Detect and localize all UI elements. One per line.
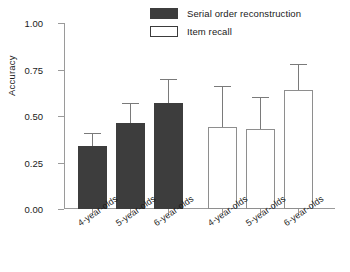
error-bar-stem [92, 133, 93, 146]
error-bar-cap [160, 79, 177, 80]
legend-label-serial-order-reconstruction: Serial order reconstruction [187, 8, 301, 19]
error-bar-stem [130, 103, 131, 123]
y-axis-title: Accuracy [6, 55, 17, 96]
y-tick-label: 0.25 [0, 159, 43, 169]
error-bar-stem [222, 86, 223, 127]
error-bar-cap [290, 64, 307, 65]
bar-serial-order-reconstruction-6-year-olds [154, 103, 183, 209]
y-tick-mark [58, 163, 64, 164]
error-bar-cap [122, 103, 139, 104]
y-tick-mark [58, 23, 64, 24]
error-bar-stem [168, 79, 169, 103]
y-tick-mark [58, 70, 64, 71]
y-axis-line [64, 23, 65, 209]
y-tick-label: 1.00 [0, 19, 43, 29]
y-tick-mark [58, 116, 64, 117]
bar-item-recall-4-year-olds [208, 127, 237, 209]
y-tick-label: 0.50 [0, 112, 43, 122]
legend-entry-serial-order-reconstruction: Serial order reconstruction [150, 7, 301, 19]
bar-item-recall-6-year-olds [284, 90, 313, 209]
error-bar-cap [214, 86, 231, 87]
y-tick-mark [58, 209, 64, 210]
error-bar-stem [260, 97, 261, 129]
y-tick-label: 0.00 [0, 205, 43, 215]
bar-serial-order-reconstruction-5-year-olds [116, 123, 145, 209]
legend-swatch-filled-icon [150, 8, 178, 19]
accuracy-bar-chart: Serial order reconstruction Item recall … [0, 0, 350, 272]
plot-area: 1.000.750.500.250.00 [64, 23, 335, 209]
y-tick-label: 0.75 [0, 66, 43, 76]
error-bar-cap [84, 133, 101, 134]
error-bar-cap [252, 97, 269, 98]
bar-item-recall-5-year-olds [246, 129, 275, 209]
bar-serial-order-reconstruction-4-year-olds [78, 146, 107, 209]
error-bar-stem [298, 64, 299, 90]
